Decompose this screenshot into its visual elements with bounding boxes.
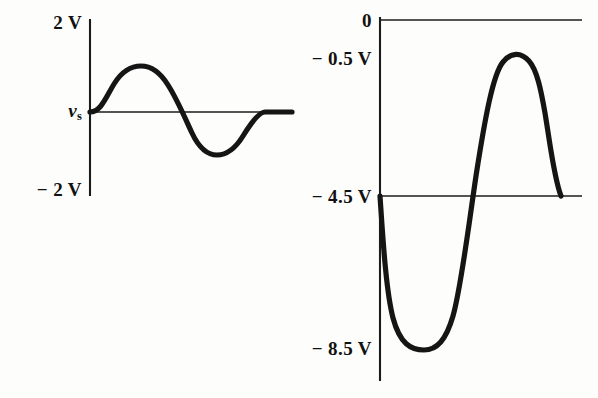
output-voltage-chart: 0 − 0.5 V − 4.5 V − 8.5 V [300, 0, 598, 398]
right-axis-label-zero: 0 [362, 11, 372, 30]
right-axis-label-trough: − 8.5 V [312, 339, 372, 358]
source-symbol-subscript: s [77, 109, 82, 123]
figure-root: 2 V vs − 2 V 0 − 0.5 V − 4.5 V − 8.5 V [0, 0, 598, 398]
source-symbol-base: v [68, 100, 76, 121]
right-axis-label-bias: − 4.5 V [312, 187, 372, 206]
source-sine-waveform [90, 66, 292, 155]
output-waveform [380, 54, 561, 350]
right-axis-label-peak: − 0.5 V [312, 49, 372, 68]
left-axis-label-source-symbol: vs [68, 101, 82, 122]
source-voltage-chart: 2 V vs − 2 V [0, 0, 300, 398]
left-axis-label-bottom: − 2 V [37, 180, 82, 199]
left-axis-label-top: 2 V [53, 13, 82, 32]
